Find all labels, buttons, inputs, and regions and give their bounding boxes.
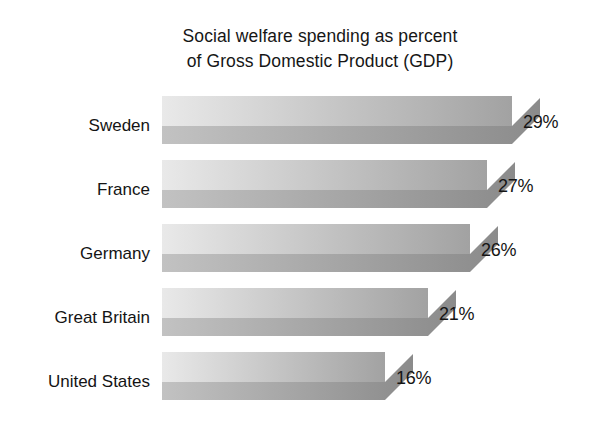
bar-germany [162, 224, 502, 276]
bar-face [162, 160, 487, 190]
value-label-united-states: 16% [396, 368, 431, 388]
chart-title-line-1: Social welfare spending as percent [150, 24, 490, 49]
chart-title: Social welfare spending as percent of Gr… [150, 24, 490, 74]
value-label-great-britain: 21% [439, 304, 474, 324]
category-label-united-states: United States [0, 372, 150, 392]
bar-great-britain [162, 288, 460, 340]
bar-face [162, 352, 385, 382]
bar-france [162, 160, 519, 212]
bar-united-states [162, 352, 417, 404]
value-label-france: 27% [498, 176, 533, 196]
plot-area: Sweden29%France27%Germany26%Great Britai… [0, 96, 615, 411]
category-label-france: France [0, 180, 150, 200]
bar-sweden [162, 96, 544, 148]
category-label-great-britain: Great Britain [0, 308, 150, 328]
value-label-sweden: 29% [523, 112, 558, 132]
value-label-germany: 26% [481, 240, 516, 260]
bar-face [162, 224, 470, 254]
bar-face [162, 96, 512, 126]
category-label-germany: Germany [0, 244, 150, 264]
bar-chart: Social welfare spending as percent of Gr… [0, 0, 615, 428]
category-label-sweden: Sweden [0, 116, 150, 136]
bar-face [162, 288, 428, 318]
chart-title-line-2: of Gross Domestic Product (GDP) [150, 49, 490, 74]
